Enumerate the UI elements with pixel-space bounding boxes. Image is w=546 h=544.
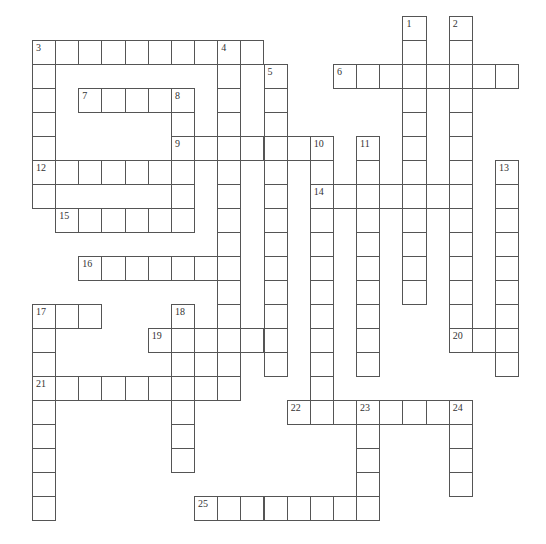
crossword-cell[interactable]: 19 <box>148 328 172 353</box>
crossword-cell[interactable] <box>264 112 288 137</box>
crossword-cell[interactable] <box>402 184 426 209</box>
crossword-cell[interactable] <box>310 280 334 305</box>
crossword-cell[interactable] <box>125 256 149 281</box>
crossword-cell[interactable] <box>287 136 311 161</box>
crossword-cell[interactable]: 12 <box>32 160 56 185</box>
crossword-cell[interactable] <box>310 376 334 401</box>
crossword-cell[interactable] <box>426 184 450 209</box>
crossword-cell[interactable] <box>217 256 241 281</box>
crossword-cell[interactable] <box>449 88 473 113</box>
crossword-cell[interactable] <box>78 160 102 185</box>
crossword-cell[interactable]: 6 <box>333 64 357 89</box>
crossword-cell[interactable] <box>333 496 357 521</box>
crossword-cell[interactable] <box>101 40 125 65</box>
crossword-cell[interactable] <box>217 304 241 329</box>
crossword-cell[interactable] <box>472 64 496 89</box>
crossword-cell[interactable] <box>356 256 380 281</box>
crossword-cell[interactable]: 14 <box>310 184 334 209</box>
crossword-cell[interactable] <box>310 160 334 185</box>
crossword-cell[interactable]: 25 <box>194 496 218 521</box>
crossword-cell[interactable] <box>171 352 195 377</box>
crossword-cell[interactable] <box>402 40 426 65</box>
crossword-cell[interactable]: 23 <box>356 400 380 425</box>
crossword-cell[interactable] <box>449 256 473 281</box>
crossword-cell[interactable] <box>148 88 172 113</box>
crossword-cell[interactable]: 3 <box>32 40 56 65</box>
crossword-cell[interactable] <box>402 256 426 281</box>
crossword-cell[interactable] <box>32 88 56 113</box>
crossword-cell[interactable] <box>171 112 195 137</box>
crossword-cell[interactable]: 18 <box>171 304 195 329</box>
crossword-cell[interactable] <box>449 304 473 329</box>
crossword-cell[interactable] <box>194 40 218 65</box>
crossword-cell[interactable] <box>356 328 380 353</box>
crossword-cell[interactable]: 21 <box>32 376 56 401</box>
crossword-cell[interactable] <box>495 304 519 329</box>
crossword-cell[interactable]: 11 <box>356 136 380 161</box>
crossword-cell[interactable] <box>449 136 473 161</box>
crossword-cell[interactable] <box>171 184 195 209</box>
crossword-cell[interactable] <box>264 232 288 257</box>
crossword-cell[interactable] <box>194 376 218 401</box>
crossword-cell[interactable] <box>310 208 334 233</box>
crossword-cell[interactable] <box>449 472 473 497</box>
crossword-cell[interactable] <box>264 328 288 353</box>
crossword-cell[interactable] <box>356 280 380 305</box>
crossword-cell[interactable] <box>356 232 380 257</box>
crossword-cell[interactable]: 17 <box>32 304 56 329</box>
crossword-cell[interactable]: 20 <box>449 328 473 353</box>
crossword-cell[interactable] <box>356 424 380 449</box>
crossword-cell[interactable] <box>148 376 172 401</box>
crossword-cell[interactable] <box>101 208 125 233</box>
crossword-cell[interactable] <box>402 160 426 185</box>
crossword-cell[interactable] <box>194 136 218 161</box>
crossword-cell[interactable] <box>194 256 218 281</box>
crossword-cell[interactable] <box>217 352 241 377</box>
crossword-cell[interactable] <box>264 136 288 161</box>
crossword-cell[interactable] <box>379 184 403 209</box>
crossword-cell[interactable] <box>240 40 264 65</box>
crossword-cell[interactable] <box>32 64 56 89</box>
crossword-cell[interactable]: 1 <box>402 16 426 41</box>
crossword-cell[interactable] <box>356 304 380 329</box>
crossword-cell[interactable] <box>217 376 241 401</box>
crossword-cell[interactable] <box>148 256 172 281</box>
crossword-cell[interactable]: 7 <box>78 88 102 113</box>
crossword-cell[interactable]: 8 <box>171 88 195 113</box>
crossword-cell[interactable] <box>78 304 102 329</box>
crossword-cell[interactable] <box>495 352 519 377</box>
crossword-cell[interactable] <box>310 328 334 353</box>
crossword-cell[interactable] <box>495 328 519 353</box>
crossword-cell[interactable] <box>402 112 426 137</box>
crossword-cell[interactable] <box>356 160 380 185</box>
crossword-cell[interactable] <box>495 256 519 281</box>
crossword-cell[interactable] <box>101 256 125 281</box>
crossword-cell[interactable] <box>356 352 380 377</box>
crossword-cell[interactable] <box>402 232 426 257</box>
crossword-cell[interactable]: 9 <box>171 136 195 161</box>
crossword-cell[interactable] <box>171 208 195 233</box>
crossword-cell[interactable] <box>148 208 172 233</box>
crossword-cell[interactable] <box>379 400 403 425</box>
crossword-cell[interactable] <box>449 448 473 473</box>
crossword-cell[interactable] <box>171 328 195 353</box>
crossword-cell[interactable] <box>310 232 334 257</box>
crossword-cell[interactable] <box>217 136 241 161</box>
crossword-cell[interactable] <box>125 208 149 233</box>
crossword-cell[interactable] <box>217 160 241 185</box>
crossword-cell[interactable] <box>449 424 473 449</box>
crossword-cell[interactable] <box>356 208 380 233</box>
crossword-cell[interactable] <box>495 232 519 257</box>
crossword-cell[interactable] <box>78 208 102 233</box>
crossword-cell[interactable] <box>171 400 195 425</box>
crossword-cell[interactable] <box>264 208 288 233</box>
crossword-cell[interactable] <box>472 328 496 353</box>
crossword-cell[interactable] <box>171 256 195 281</box>
crossword-cell[interactable] <box>55 304 79 329</box>
crossword-cell[interactable] <box>32 352 56 377</box>
crossword-cell[interactable] <box>449 40 473 65</box>
crossword-cell[interactable] <box>449 184 473 209</box>
crossword-cell[interactable] <box>356 496 380 521</box>
crossword-cell[interactable] <box>287 496 311 521</box>
crossword-cell[interactable] <box>32 112 56 137</box>
